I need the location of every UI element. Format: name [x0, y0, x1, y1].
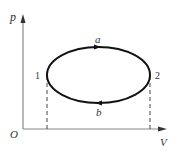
y-axis-label: p	[9, 10, 16, 24]
path-b-arrow-icon	[95, 101, 102, 106]
x-axis-arrow-icon	[158, 127, 167, 132]
state-1-label: 1	[35, 70, 40, 81]
y-axis-arrow-icon	[21, 14, 26, 23]
origin-label: O	[10, 128, 18, 140]
cycle-ellipse	[47, 47, 150, 103]
x-axis-label: V	[160, 136, 168, 148]
path-b-label: b	[96, 106, 102, 118]
pv-diagram: p V O 1 2 a b	[0, 0, 184, 155]
path-a-label: a	[95, 33, 101, 45]
path-a-arrow-icon	[94, 45, 101, 50]
state-2-label: 2	[155, 70, 160, 81]
